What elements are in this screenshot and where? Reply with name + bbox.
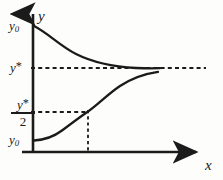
y0-bottom-subscript: 0 <box>15 138 19 148</box>
fraction-numerator-asterisk: * <box>23 96 29 110</box>
y0-top-tick-label: y0 <box>9 19 19 34</box>
y0-bottom-tick-label: y0 <box>9 133 19 148</box>
fraction-denominator: 2 <box>10 114 36 130</box>
y-star-asterisk: * <box>16 59 22 73</box>
y-star-tick-label: y* <box>10 60 22 74</box>
decreasing-solution-curve <box>34 26 160 68</box>
x-axis-label: x <box>205 158 212 173</box>
plot-svg <box>0 0 223 180</box>
y-axis-label: y <box>38 9 45 24</box>
figure-canvas: y x y0 y* y* 2 y0 <box>0 0 223 180</box>
increasing-sigmoid-curve <box>34 72 158 141</box>
fraction-numerator: y* <box>10 97 36 112</box>
y-star-half-tick-label: y* 2 <box>10 97 36 130</box>
y0-top-subscript: 0 <box>15 24 19 34</box>
